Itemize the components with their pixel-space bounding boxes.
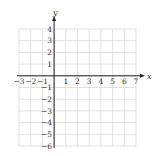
y-tick-label: −3 [41, 107, 52, 116]
x-tick-label: 5 [110, 77, 115, 86]
y-tick-label: 3 [47, 36, 52, 45]
y-tick-label: 2 [47, 48, 52, 57]
y-tick-label: 4 [47, 25, 52, 34]
y-axis-label: y [52, 8, 58, 17]
y-tick-label: −4 [41, 118, 52, 127]
x-tick-label: 1 [63, 77, 68, 86]
x-tick-label: 4 [99, 77, 104, 86]
coordinate-plane: x y −3−2−11234567 4321−1−2−3−4−5−6 [0, 0, 156, 156]
x-tick-label: −2 [25, 77, 36, 86]
x-tick-label: 6 [122, 77, 127, 86]
y-tick-label: −6 [41, 142, 52, 151]
grid-lines [19, 29, 136, 146]
y-tick-label: −1 [41, 83, 52, 92]
x-tick-labels: −3−2−11234567 [13, 77, 138, 86]
x-tick-label: 2 [75, 77, 80, 86]
x-axis-label: x [147, 72, 152, 81]
arrow-right-icon [140, 74, 145, 78]
y-tick-label: −2 [41, 95, 52, 104]
y-tick-label: 1 [47, 60, 52, 69]
y-tick-label: −5 [41, 130, 52, 139]
x-tick-label: −3 [13, 77, 24, 86]
x-tick-label: 3 [87, 77, 92, 86]
x-tick-label: 7 [134, 77, 139, 86]
